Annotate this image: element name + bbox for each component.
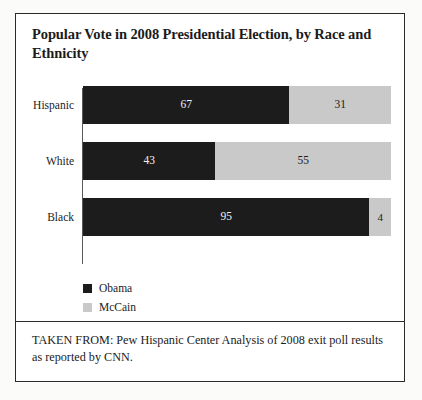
bar-segment-obama-white: 43 bbox=[83, 142, 215, 180]
bar-segment-mccain-white: 55 bbox=[215, 142, 391, 180]
bar-value-mccain-white: 55 bbox=[297, 155, 309, 167]
legend-item-mccain: McCain bbox=[83, 299, 136, 315]
bar-value-mccain-hispanic: 31 bbox=[334, 99, 346, 111]
legend-label-mccain: McCain bbox=[99, 301, 136, 313]
bar-value-mccain-black: 4 bbox=[377, 212, 383, 223]
bar-row: White 43 55 bbox=[16, 142, 404, 180]
source-divider bbox=[16, 321, 404, 322]
chart-plot-area: Hispanic 67 31 White 43 55 bbox=[16, 86, 404, 274]
stacked-bar-white: 43 55 bbox=[83, 142, 391, 180]
bar-segment-mccain-hispanic: 31 bbox=[289, 86, 391, 124]
figure-frame: Popular Vote in 2008 Presidential Electi… bbox=[15, 13, 405, 382]
legend-swatch-obama-icon bbox=[83, 284, 92, 293]
chart-legend: Obama McCain bbox=[83, 280, 136, 318]
bar-segment-obama-black: 95 bbox=[83, 198, 369, 236]
category-label-black: Black bbox=[16, 211, 74, 223]
legend-item-obama: Obama bbox=[83, 280, 136, 296]
stacked-bar-black: 95 4 bbox=[83, 198, 391, 236]
bar-value-obama-white: 43 bbox=[143, 155, 155, 167]
bar-value-obama-hispanic: 67 bbox=[180, 99, 192, 111]
stacked-bar-hispanic: 67 31 bbox=[83, 86, 391, 124]
source-note: TAKEN FROM: Pew Hispanic Center Analysis… bbox=[32, 332, 386, 366]
bar-segment-obama-hispanic: 67 bbox=[83, 86, 289, 124]
category-label-hispanic: Hispanic bbox=[16, 99, 74, 111]
figure-title: Popular Vote in 2008 Presidential Electi… bbox=[32, 25, 384, 64]
legend-swatch-mccain-icon bbox=[83, 303, 92, 312]
bar-row: Black 95 4 bbox=[16, 198, 404, 236]
legend-label-obama: Obama bbox=[99, 282, 132, 294]
bar-segment-mccain-black: 4 bbox=[369, 198, 391, 236]
bar-row: Hispanic 67 31 bbox=[16, 86, 404, 124]
bar-value-obama-black: 95 bbox=[220, 211, 232, 223]
category-label-white: White bbox=[16, 155, 74, 167]
